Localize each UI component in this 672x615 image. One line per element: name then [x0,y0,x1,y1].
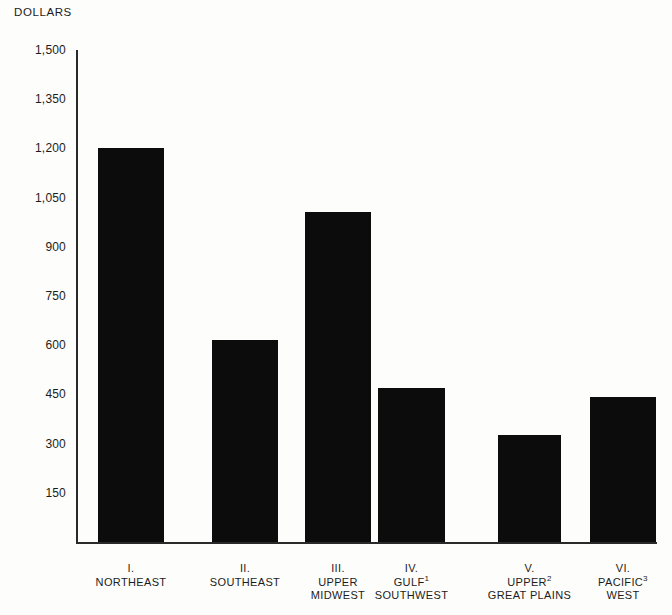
footnote-marker: 3 [643,574,648,583]
x-axis-category-label: VI.PACIFIC3WEST [548,562,672,603]
category-numeral: VI. [548,562,672,576]
bar [98,148,164,542]
bars-layer [0,0,672,615]
chart-page: DOLLARS 1,5001,3501,2001,050900750600450… [0,0,672,615]
bar [305,212,371,542]
bar [378,388,445,542]
bar [590,397,656,542]
bar [498,435,561,542]
footnote-marker: 1 [424,574,429,583]
bar [212,340,278,542]
category-name-line2: WEST [548,589,672,603]
category-name: PACIFIC3 [548,576,672,590]
